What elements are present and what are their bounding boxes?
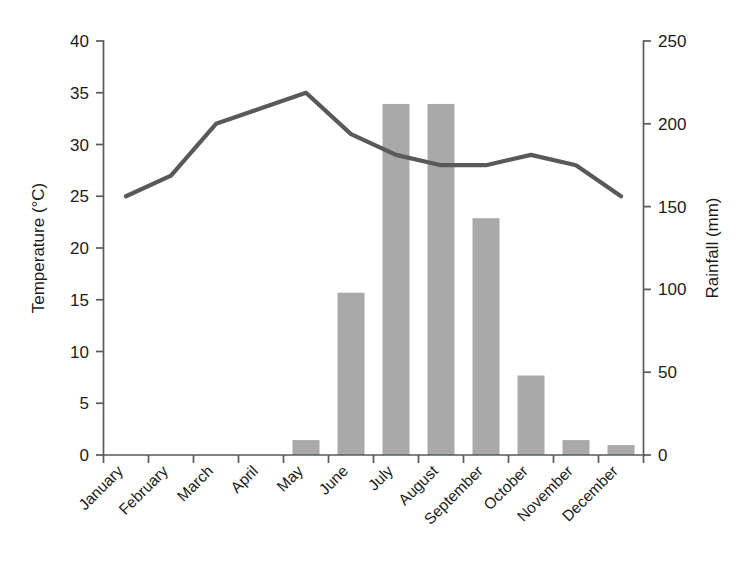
rainfall-bar [428, 104, 455, 455]
right-tick-label: 250 [658, 32, 686, 51]
left-tick-label: 35 [70, 84, 89, 103]
right-tick-label: 50 [658, 363, 677, 382]
right-tick-label: 0 [658, 446, 667, 465]
rainfall-bar [563, 440, 590, 455]
rainfall-bar [473, 218, 500, 455]
left-tick-label: 0 [80, 446, 89, 465]
rainfall-bar [338, 293, 365, 455]
left-tick-label: 40 [70, 32, 89, 51]
right-tick-label: 100 [658, 280, 686, 299]
rainfall-bar [518, 376, 545, 455]
right-tick-label: 150 [658, 198, 686, 217]
right-axis-title: Rainfall (mm) [703, 197, 722, 298]
left-tick-label: 30 [70, 136, 89, 155]
left-tick-label: 20 [70, 239, 89, 258]
left-tick-label: 5 [80, 394, 89, 413]
chart-canvas: 0510152025303540 Temperature (°C) 050100… [0, 0, 744, 577]
rainfall-bar [293, 440, 320, 455]
rainfall-bar [608, 445, 635, 455]
left-tick-label: 15 [70, 291, 89, 310]
left-axis-title: Temperature (°C) [29, 183, 48, 314]
left-tick-label: 25 [70, 187, 89, 206]
climograph-chart: 0510152025303540 Temperature (°C) 050100… [0, 0, 744, 577]
left-tick-label: 10 [70, 343, 89, 362]
chart-background [0, 0, 744, 577]
right-tick-label: 200 [658, 115, 686, 134]
